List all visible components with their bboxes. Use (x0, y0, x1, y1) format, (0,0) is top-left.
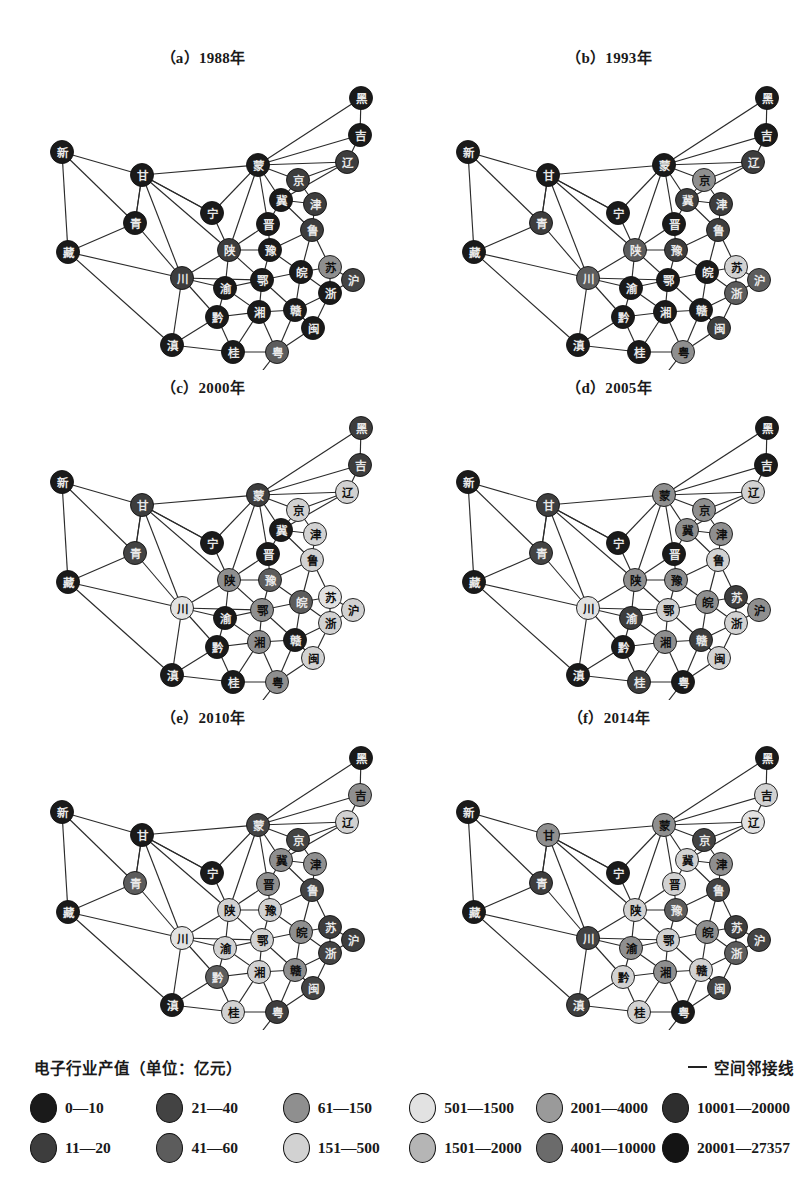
province-node[interactable]: 晋 (257, 213, 280, 236)
province-node[interactable]: 京 (693, 829, 716, 852)
province-node[interactable]: 吉 (755, 454, 778, 477)
province-node[interactable]: 蒙 (247, 154, 270, 177)
province-node[interactable]: 渝 (214, 937, 237, 960)
province-node[interactable]: 蒙 (653, 814, 676, 837)
province-node[interactable]: 湘 (248, 961, 271, 984)
province-node[interactable]: 津 (710, 193, 733, 216)
province-node[interactable]: 宁 (607, 532, 630, 555)
province-node[interactable]: 晋 (663, 213, 686, 236)
province-node[interactable]: 浙 (725, 942, 748, 965)
province-node[interactable]: 桂 (222, 1001, 245, 1024)
province-node[interactable]: 鲁 (707, 549, 730, 572)
province-node[interactable]: 皖 (290, 261, 313, 284)
province-node[interactable]: 陕 (218, 569, 241, 592)
province-node[interactable]: 京 (693, 499, 716, 522)
province-node[interactable]: 滇 (161, 994, 184, 1017)
province-node[interactable]: 滇 (567, 334, 590, 357)
province-node[interactable]: 浙 (319, 942, 342, 965)
province-node[interactable]: 鲁 (707, 219, 730, 242)
province-node[interactable]: 渝 (214, 277, 237, 300)
province-node[interactable]: 新 (51, 471, 74, 494)
province-node[interactable]: 黑 (350, 87, 373, 110)
province-node[interactable]: 黔 (206, 636, 229, 659)
province-node[interactable]: 粤 (266, 671, 289, 694)
province-node[interactable]: 沪 (748, 269, 771, 292)
province-node[interactable]: 湘 (654, 301, 677, 324)
province-node[interactable]: 吉 (349, 454, 372, 477)
province-node[interactable]: 蒙 (247, 484, 270, 507)
province-node[interactable]: 桂 (222, 341, 245, 364)
province-node[interactable]: 辽 (742, 151, 765, 174)
province-node[interactable]: 藏 (57, 901, 80, 924)
province-node[interactable]: 藏 (463, 571, 486, 594)
province-node[interactable]: 皖 (696, 921, 719, 944)
province-node[interactable]: 鄂 (657, 599, 680, 622)
province-node[interactable]: 豫 (665, 899, 688, 922)
province-node[interactable]: 沪 (748, 929, 771, 952)
province-node[interactable]: 川 (171, 927, 194, 950)
province-node[interactable]: 晋 (257, 873, 280, 896)
province-node[interactable]: 川 (171, 267, 194, 290)
province-node[interactable]: 皖 (290, 921, 313, 944)
province-node[interactable]: 闽 (302, 647, 325, 670)
province-node[interactable]: 赣 (284, 959, 307, 982)
province-node[interactable]: 津 (304, 853, 327, 876)
province-node[interactable]: 湘 (654, 961, 677, 984)
province-node[interactable]: 黑 (350, 747, 373, 770)
province-node[interactable]: 津 (304, 523, 327, 546)
province-node[interactable]: 粤 (672, 671, 695, 694)
province-node[interactable]: 川 (577, 927, 600, 950)
province-node[interactable]: 皖 (696, 591, 719, 614)
province-node[interactable]: 豫 (259, 569, 282, 592)
province-node[interactable]: 陕 (218, 899, 241, 922)
province-node[interactable]: 皖 (290, 591, 313, 614)
province-node[interactable]: 皖 (696, 261, 719, 284)
province-node[interactable]: 滇 (567, 664, 590, 687)
province-node[interactable]: 蒙 (247, 814, 270, 837)
province-node[interactable]: 苏 (319, 586, 342, 609)
province-node[interactable]: 新 (457, 801, 480, 824)
province-node[interactable]: 新 (51, 801, 74, 824)
province-node[interactable]: 豫 (665, 569, 688, 592)
province-node[interactable]: 闽 (302, 977, 325, 1000)
province-node[interactable]: 鄂 (251, 269, 274, 292)
province-node[interactable]: 陕 (624, 899, 647, 922)
province-node[interactable]: 鲁 (301, 549, 324, 572)
province-node[interactable]: 渝 (620, 607, 643, 630)
province-node[interactable]: 甘 (537, 824, 560, 847)
province-node[interactable]: 粤 (266, 341, 289, 364)
province-node[interactable]: 渝 (620, 937, 643, 960)
province-node[interactable]: 沪 (748, 599, 771, 622)
province-node[interactable]: 吉 (349, 124, 372, 147)
province-node[interactable]: 青 (124, 542, 147, 565)
province-node[interactable]: 苏 (725, 586, 748, 609)
province-node[interactable]: 辽 (742, 481, 765, 504)
province-node[interactable]: 青 (124, 872, 147, 895)
province-node[interactable]: 沪 (342, 599, 365, 622)
province-node[interactable]: 渝 (620, 277, 643, 300)
province-node[interactable]: 滇 (161, 334, 184, 357)
province-node[interactable]: 宁 (201, 202, 224, 225)
province-node[interactable]: 苏 (725, 256, 748, 279)
province-node[interactable]: 甘 (131, 494, 154, 517)
province-node[interactable]: 苏 (725, 916, 748, 939)
province-node[interactable]: 川 (577, 597, 600, 620)
province-node[interactable]: 闽 (708, 647, 731, 670)
province-node[interactable]: 京 (693, 169, 716, 192)
province-node[interactable]: 赣 (690, 629, 713, 652)
province-node[interactable]: 桂 (628, 341, 651, 364)
province-node[interactable]: 浙 (725, 282, 748, 305)
province-node[interactable]: 渝 (214, 607, 237, 630)
province-node[interactable]: 冀 (270, 849, 293, 872)
province-node[interactable]: 黔 (206, 306, 229, 329)
province-node[interactable]: 津 (304, 193, 327, 216)
province-node[interactable]: 吉 (349, 784, 372, 807)
province-node[interactable]: 辽 (336, 151, 359, 174)
province-node[interactable]: 冀 (270, 519, 293, 542)
province-node[interactable]: 湘 (654, 631, 677, 654)
province-node[interactable]: 滇 (161, 664, 184, 687)
province-node[interactable]: 豫 (259, 239, 282, 262)
province-node[interactable]: 湘 (248, 631, 271, 654)
province-node[interactable]: 青 (530, 542, 553, 565)
province-node[interactable]: 赣 (690, 959, 713, 982)
